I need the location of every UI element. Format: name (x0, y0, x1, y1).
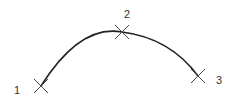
arc-diagram (0, 0, 240, 103)
point-2-label: 2 (124, 9, 130, 20)
point-3-marker-icon (191, 69, 205, 83)
arc-curve (41, 31, 198, 86)
point-1-label: 1 (14, 85, 20, 96)
point-1-marker-icon (34, 79, 48, 93)
point-3-label: 3 (216, 75, 222, 86)
